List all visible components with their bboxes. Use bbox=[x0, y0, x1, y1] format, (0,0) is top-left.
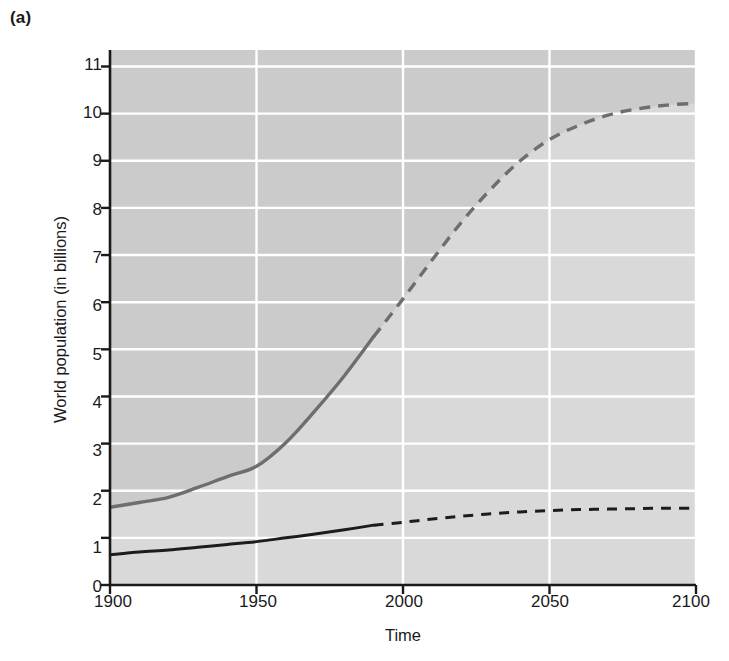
figure-panel: (a) World population (in billions) Time … bbox=[0, 0, 729, 661]
chart-canvas bbox=[0, 0, 729, 661]
